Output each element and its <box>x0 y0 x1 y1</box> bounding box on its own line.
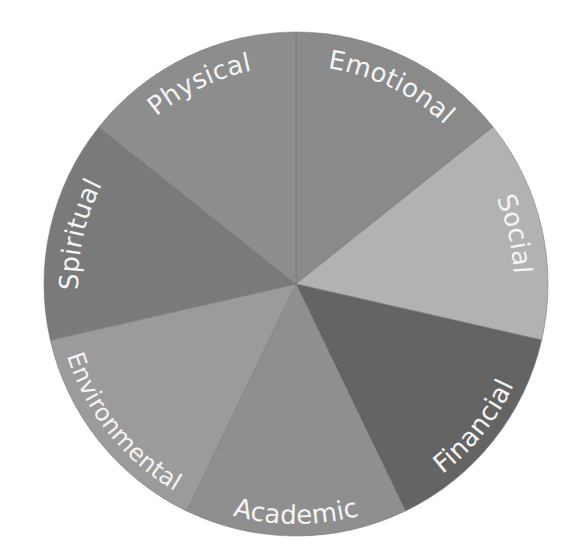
wellness-wheel-pie-chart: EmotionalSocialFinancialAcademicEnvironm… <box>0 0 582 555</box>
pie-slices <box>44 32 548 536</box>
